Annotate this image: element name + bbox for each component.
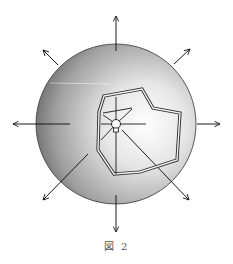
- arrow-up-left: [43, 50, 58, 65]
- arrow-up-right: [174, 49, 190, 64]
- sphere-diagram: [0, 0, 233, 264]
- figure-caption: 図 2: [0, 238, 233, 253]
